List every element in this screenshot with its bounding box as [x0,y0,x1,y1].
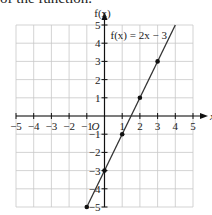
y-tick-label: 5 [95,19,101,31]
x-axis-arrow-icon [200,113,208,119]
y-tick-label: −5 [89,201,101,213]
function-graph: −5−4−3−2−112345−5−4−3−2−112345xf(x)Of(x)… [0,0,212,215]
x-tick-label: 3 [155,120,161,132]
x-tick-label: −4 [28,120,40,132]
series-layer [85,25,176,209]
y-tick-label: 4 [95,37,101,49]
axes [16,12,208,207]
x-tick-label: 1 [119,120,125,132]
x-tick-label: −3 [46,120,58,132]
y-axis-label: f(x) [94,7,111,20]
x-tick-label: 4 [173,120,179,132]
y-tick-label: 1 [95,92,101,104]
y-tick-label: −4 [89,183,101,195]
labels-layer: −5−4−3−2−112345−5−4−3−2−112345xf(x)Of(x)… [10,7,212,213]
x-tick-label: 5 [190,120,196,132]
origin-label: O [92,120,100,132]
y-tick-label: −3 [89,165,101,177]
x-tick-label: −5 [10,120,22,132]
x-axis-label: x [209,110,212,122]
x-tick-label: −2 [63,120,75,132]
y-tick-label: 2 [95,74,101,86]
data-point [138,96,143,101]
y-tick-label: −2 [89,146,101,158]
data-point [155,59,160,64]
y-tick-label: 3 [95,55,101,67]
x-tick-label: 2 [137,120,143,132]
equation-annotation: f(x) = 2x − 3 [111,29,168,42]
data-point [102,168,107,173]
data-point [120,132,125,137]
